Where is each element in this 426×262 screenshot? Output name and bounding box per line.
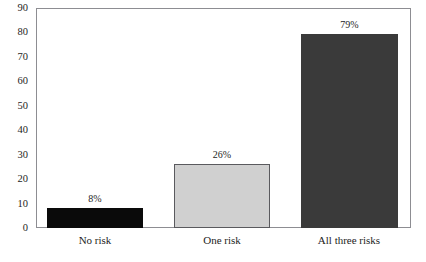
bar-value-all-three-risks: 79% <box>301 20 398 30</box>
bar-chart: 90 80 70 60 50 40 30 20 10 0 8% No risk … <box>0 0 426 262</box>
bar-value-no-risk: 8% <box>47 194 143 204</box>
x-axis-label-one-risk: One risk <box>162 234 282 246</box>
x-axis-label-no-risk: No risk <box>35 234 155 246</box>
bar-one-risk[interactable] <box>174 164 270 228</box>
bar-no-risk[interactable] <box>47 208 143 228</box>
x-axis-label-all-three-risks: All three risks <box>289 234 409 246</box>
bars-layer: 8% No risk 26% One risk 79% All three ri… <box>0 0 426 262</box>
bar-all-three-risks[interactable] <box>301 34 398 228</box>
bar-value-one-risk: 26% <box>174 150 270 160</box>
